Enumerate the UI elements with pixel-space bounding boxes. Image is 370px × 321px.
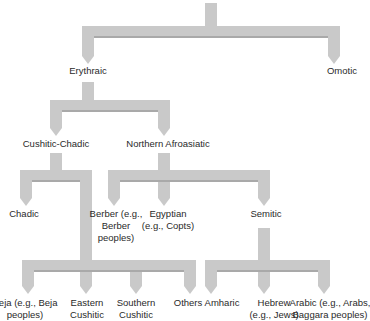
node-arabic-line2: Baggara peoples): [290, 309, 370, 321]
semitic-branch: [205, 228, 330, 294]
node-others: Others: [174, 297, 203, 309]
erythraic-branch: [50, 82, 170, 136]
node-egyptian-line1: Egyptian: [142, 208, 194, 220]
node-egyptian-line2: (e.g., Copts): [142, 220, 194, 232]
node-berber-line3: peoples): [90, 232, 143, 244]
node-amharic: Amharic: [205, 297, 240, 309]
node-southern-cushitic: Southern Cushitic: [117, 297, 156, 321]
node-semitic: Semitic: [250, 208, 281, 220]
node-berber: Berber (e.g., Berber peoples): [90, 208, 143, 244]
node-eastern-cushitic: Eastern Cushitic: [70, 297, 104, 321]
cushitic-branch: [22, 260, 196, 294]
node-chadic: Chadic: [9, 208, 39, 220]
node-southern-line1: Southern: [117, 297, 156, 309]
node-arabic-line1: Arabic (e.g., Arabs,: [290, 297, 370, 309]
node-eastern-line2: Cushitic: [70, 309, 104, 321]
node-beja-line2: peoples): [0, 309, 57, 321]
node-egyptian: Egyptian (e.g., Copts): [142, 208, 194, 232]
node-southern-line2: Cushitic: [117, 309, 156, 321]
node-arabic: Arabic (e.g., Arabs, Baggara peoples): [290, 297, 370, 321]
node-berber-line2: Berber: [90, 220, 143, 232]
node-beja-line1: Beja (e.g., Beja: [0, 297, 57, 309]
northern-afroasiatic-branch: [108, 153, 270, 206]
node-northern-afroasiatic: Northern Afroasiatic: [126, 138, 209, 150]
node-eastern-line1: Eastern: [70, 297, 104, 309]
root-branch: [82, 3, 340, 64]
node-omotic: Omotic: [327, 65, 357, 77]
node-berber-line1: Berber (e.g.,: [90, 208, 143, 220]
node-beja: Beja (e.g., Beja peoples): [0, 297, 57, 321]
node-erythraic: Erythraic: [69, 65, 106, 77]
node-cushitic-chadic: Cushitic-Chadic: [23, 138, 90, 150]
